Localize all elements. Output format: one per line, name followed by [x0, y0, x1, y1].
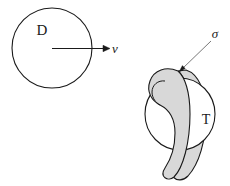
band-label: σ: [212, 26, 219, 41]
figure-container: D v σ T: [0, 0, 230, 186]
figure-canvas: D v σ T: [0, 0, 230, 186]
sphere-label: T: [202, 112, 211, 127]
right-panel-group: σ T: [145, 26, 219, 180]
left-panel-group: D v: [12, 8, 118, 88]
velocity-arrow-head: [103, 45, 110, 51]
velocity-label: v: [112, 41, 118, 56]
sigma-leader-line: [182, 41, 211, 69]
disk-label: D: [37, 22, 48, 38]
